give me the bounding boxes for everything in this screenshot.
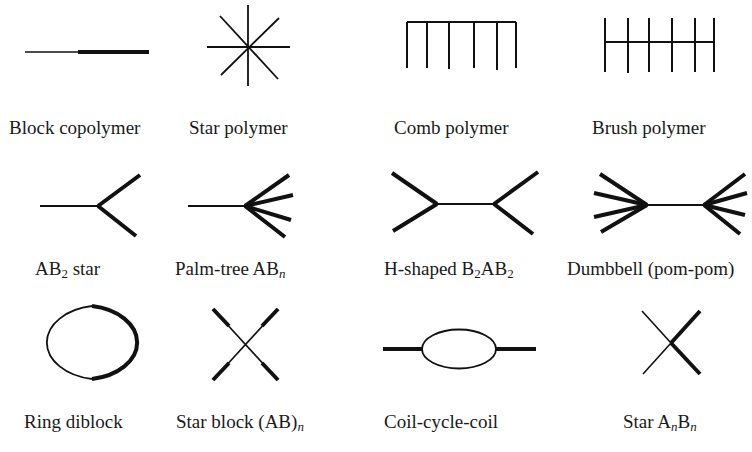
star-block-shape (213, 309, 278, 380)
label-brush-polymer: Brush polymer (592, 118, 705, 137)
label-comb-polymer: Comb polymer (394, 118, 509, 137)
polymer-architecture-diagram (0, 0, 752, 452)
palm-tree-shape (188, 175, 293, 237)
label-coil-cycle-coil: Coil-cycle-coil (384, 412, 498, 431)
star-anbn-shape (642, 311, 700, 374)
brush-polymer-shape (605, 18, 714, 73)
ab2-star-shape (40, 175, 140, 236)
label-h-shaped: H-shaped B2AB2 (384, 259, 514, 278)
label-ring-diblock: Ring diblock (24, 412, 123, 431)
coil-cycle-coil-shape (383, 330, 536, 369)
label-palm-tree: Palm-tree ABn (175, 259, 285, 278)
label-ab2-star: AB2 star (35, 259, 100, 278)
h-shaped-shape (392, 172, 538, 234)
comb-polymer-shape (407, 22, 516, 70)
label-block-copolymer: Block copolymer (9, 118, 140, 137)
star-polymer-shape (207, 5, 290, 86)
label-star-anbn: Star AnBn (623, 412, 697, 431)
label-star-polymer: Star polymer (189, 118, 288, 137)
label-dumbbell: Dumbbell (pom-pom) (567, 259, 734, 278)
label-star-block: Star block (AB)n (176, 412, 304, 431)
ring-diblock-shape (47, 306, 137, 379)
dumbbell-shape (594, 174, 747, 234)
